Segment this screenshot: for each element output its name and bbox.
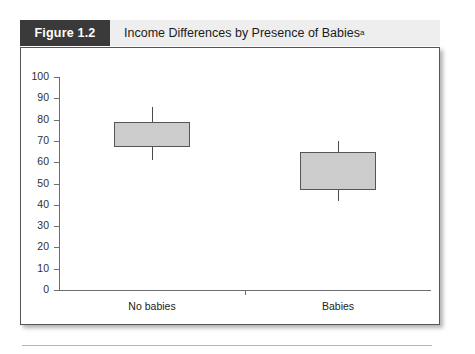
y-axis-tick-mark bbox=[54, 269, 59, 270]
y-axis-tick-mark bbox=[54, 226, 59, 227]
y-axis-tick-label: 60 bbox=[37, 155, 54, 167]
figure-caption-text: Income Differences by Presence of Babies bbox=[124, 26, 360, 40]
chart-panel: 1009080706050403020100 No babiesBabies bbox=[20, 47, 440, 325]
y-axis-tick-mark bbox=[54, 205, 59, 206]
y-axis-tick: 60 bbox=[54, 162, 59, 163]
y-axis-tick-mark bbox=[54, 77, 59, 78]
footer-divider bbox=[22, 345, 432, 346]
y-axis-tick-label: 70 bbox=[37, 134, 54, 146]
y-axis-tick-label: 30 bbox=[37, 219, 54, 231]
boxplot-box bbox=[300, 152, 376, 190]
y-axis-tick-mark bbox=[54, 141, 59, 142]
y-axis-tick: 90 bbox=[54, 98, 59, 99]
y-axis-tick: 70 bbox=[54, 141, 59, 142]
y-axis-tick: 40 bbox=[54, 205, 59, 206]
y-axis-tick-label: 90 bbox=[37, 91, 54, 103]
y-axis-tick-label: 10 bbox=[37, 262, 54, 274]
y-axis-tick: 30 bbox=[54, 226, 59, 227]
y-axis-tick-mark bbox=[54, 290, 59, 291]
figure-caption: Income Differences by Presence of Babies… bbox=[110, 20, 440, 46]
y-axis-tick-label: 40 bbox=[37, 198, 54, 210]
y-axis-tick-label: 0 bbox=[43, 283, 54, 295]
y-axis-tick: 80 bbox=[54, 120, 59, 121]
plot-area: 1009080706050403020100 No babiesBabies bbox=[21, 48, 441, 326]
y-axis-tick-mark bbox=[54, 247, 59, 248]
y-axis-line bbox=[59, 77, 60, 290]
x-axis-label: No babies bbox=[128, 300, 175, 312]
boxplot-box bbox=[114, 122, 190, 148]
y-axis-tick-mark bbox=[54, 184, 59, 185]
y-axis-tick-label: 80 bbox=[37, 113, 54, 125]
y-axis-tick: 50 bbox=[54, 184, 59, 185]
y-axis-tick-mark bbox=[54, 120, 59, 121]
figure-header: Figure 1.2 Income Differences by Presenc… bbox=[20, 20, 440, 46]
y-axis-tick: 100 bbox=[54, 77, 59, 78]
y-axis-tick-label: 100 bbox=[31, 70, 54, 82]
y-axis-tick: 20 bbox=[54, 247, 59, 248]
y-axis-tick: 10 bbox=[54, 269, 59, 270]
y-axis-tick-mark bbox=[54, 98, 59, 99]
figure-root: Figure 1.2 Income Differences by Presenc… bbox=[0, 0, 475, 354]
y-axis-tick-mark bbox=[54, 162, 59, 163]
y-axis-tick-label: 50 bbox=[37, 177, 54, 189]
x-axis-label: Babies bbox=[322, 300, 354, 312]
y-axis-tick-label: 20 bbox=[37, 240, 54, 252]
figure-number-tag: Figure 1.2 bbox=[20, 20, 110, 46]
y-axis-tick: 0 bbox=[54, 290, 59, 291]
x-axis-tick bbox=[245, 290, 246, 295]
